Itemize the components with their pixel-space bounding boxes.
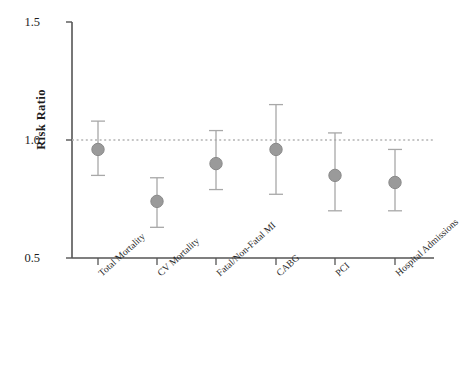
data-point-marker[interactable]: [329, 169, 341, 181]
data-point-group[interactable]: [388, 149, 402, 210]
axes-layer: [66, 22, 434, 258]
x-tick-marks-layer: [98, 258, 395, 265]
data-point-group[interactable]: [91, 121, 105, 175]
data-point-marker[interactable]: [210, 157, 222, 169]
data-point-group[interactable]: [328, 133, 342, 211]
data-point-marker[interactable]: [151, 195, 163, 207]
data-series-layer: [91, 105, 402, 228]
data-point-marker[interactable]: [92, 143, 104, 155]
data-point-group[interactable]: [269, 105, 283, 195]
data-point-group[interactable]: [150, 178, 164, 228]
data-point-marker[interactable]: [270, 143, 282, 155]
data-point-marker[interactable]: [389, 176, 401, 188]
